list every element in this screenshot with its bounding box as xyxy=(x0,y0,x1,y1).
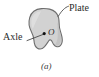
plate-label: Plate xyxy=(69,3,89,13)
axle-label: Axle xyxy=(3,32,22,42)
figure-caption: (a) xyxy=(41,62,52,71)
center-point-label: O xyxy=(48,28,55,37)
axle-center-point xyxy=(43,32,46,35)
figure-container: Plate Axle O (a) xyxy=(0,0,99,77)
plate-leader-line xyxy=(58,6,68,16)
